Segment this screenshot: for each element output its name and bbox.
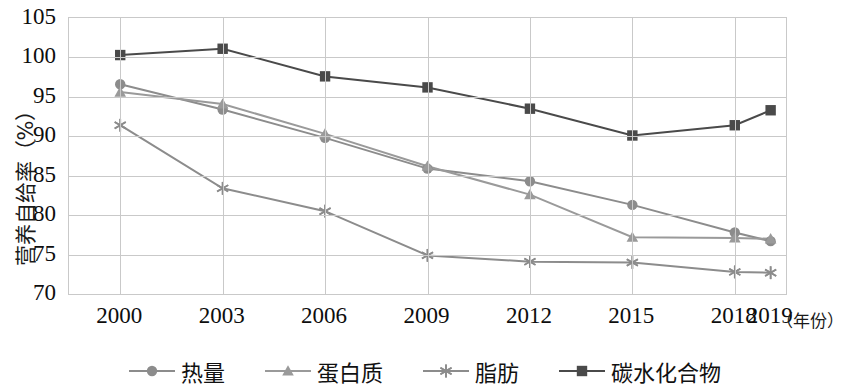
y-tick-label: 85 [0, 163, 56, 186]
nutrition-self-sufficiency-line-chart: 营养自给率（%） 105100959085807570 200020032006… [0, 0, 850, 390]
data-point-triangle [282, 365, 294, 375]
legend-item-asterisk[interactable]: 脂肪 [423, 355, 519, 387]
legend-circle-icon [129, 364, 175, 378]
legend-item-triangle[interactable]: 蛋白质 [265, 355, 383, 387]
legend-asterisk-icon [423, 364, 469, 378]
y-tick-label: 100 [0, 44, 56, 67]
data-point-square [765, 105, 775, 115]
x-tick-label: 2009 [404, 303, 450, 329]
y-tick-label: 95 [0, 84, 56, 107]
y-gridline [69, 176, 786, 177]
y-tick-label: 70 [0, 281, 56, 304]
y-gridline [69, 255, 786, 256]
y-gridline [69, 97, 786, 98]
x-gridline [120, 18, 121, 294]
y-tick-label: 80 [0, 202, 56, 225]
y-gridline [69, 136, 786, 137]
x-gridline [223, 18, 224, 294]
x-gridline [530, 18, 531, 294]
legend-label: 热量 [181, 355, 225, 387]
legend-item-square[interactable]: 碳水化合物 [559, 355, 721, 387]
y-tick-label: 90 [0, 123, 56, 146]
series-square [120, 49, 770, 136]
data-point-square [577, 366, 587, 376]
data-point-asterisk [440, 365, 451, 378]
x-tick-label: 2015 [608, 303, 654, 329]
x-gridline [632, 18, 633, 294]
legend-item-circle[interactable]: 热量 [129, 355, 225, 387]
y-tick-label: 105 [0, 5, 56, 28]
chart-legend: 热量蛋白质脂肪碳水化合物 [0, 352, 850, 390]
plot-area [68, 17, 787, 295]
x-axis-title: （年份） [776, 307, 844, 332]
x-tick-label: 2003 [199, 303, 245, 329]
x-gridline [428, 18, 429, 294]
x-tick-label: 2006 [301, 303, 347, 329]
x-gridline [325, 18, 326, 294]
series-asterisk [120, 125, 770, 273]
y-tick-label: 75 [0, 242, 56, 265]
legend-triangle-icon [265, 364, 311, 378]
y-gridline [69, 215, 786, 216]
legend-label: 脂肪 [475, 355, 519, 387]
legend-label: 蛋白质 [317, 355, 383, 387]
data-point-circle [147, 366, 157, 376]
x-tick-label: 2012 [506, 303, 552, 329]
x-gridline [735, 18, 736, 294]
legend-label: 碳水化合物 [611, 355, 721, 387]
x-tick-label: 2000 [96, 303, 142, 329]
y-gridline [69, 57, 786, 58]
legend-square-icon [559, 364, 605, 378]
